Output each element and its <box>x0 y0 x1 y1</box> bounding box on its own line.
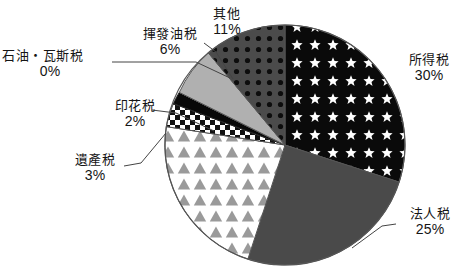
label-estate-tax: 遺產税 3% <box>56 152 134 184</box>
label-income-tax-percent: 30% <box>396 67 462 84</box>
label-income-tax-name: 所得税 <box>396 52 462 67</box>
label-stamp-tax-name: 印花税 <box>98 98 172 113</box>
label-estate-tax-percent: 3% <box>56 167 134 184</box>
label-other: 其他 11% <box>196 6 258 38</box>
label-estate-tax-name: 遺產税 <box>56 152 134 167</box>
label-stamp-tax-percent: 2% <box>98 113 172 130</box>
label-petroleum-gas-tax: 石油・瓦斯税 0% <box>2 48 120 80</box>
label-petroleum-gas-tax-percent: 0% <box>2 63 120 80</box>
pie-chart-page: 石油・瓦斯税 0% 揮發油税 6% 其他 11% 印花税 2% 遺產税 3% 所… <box>0 0 464 277</box>
pie-chart <box>0 0 464 277</box>
label-petroleum-gas-tax-name: 石油・瓦斯税 <box>2 48 120 63</box>
label-corporate-tax: 法人税 25% <box>398 206 462 238</box>
label-gasoline-tax-percent: 6% <box>122 41 218 58</box>
label-other-percent: 11% <box>196 21 258 38</box>
pie-slices <box>165 25 405 265</box>
label-other-name: 其他 <box>196 6 258 21</box>
label-stamp-tax: 印花税 2% <box>98 98 172 130</box>
label-corporate-tax-percent: 25% <box>398 221 462 238</box>
label-income-tax: 所得税 30% <box>396 52 462 84</box>
label-corporate-tax-name: 法人税 <box>398 206 462 221</box>
